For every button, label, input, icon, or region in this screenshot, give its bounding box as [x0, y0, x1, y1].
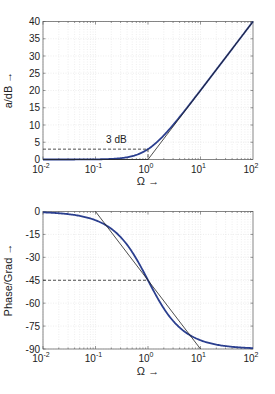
y-tick-label: 0 — [34, 206, 40, 217]
y-tick-label: 20 — [29, 85, 41, 96]
chart-magnitude: 051015202530354010-210-1100101102Ω →a/dB… — [2, 16, 259, 187]
y-tick-label: -15 — [26, 229, 41, 240]
y-tick-label: -30 — [26, 252, 41, 263]
x-tick-label: 100 — [138, 162, 153, 175]
y-axis-label: a/dB → — [2, 72, 14, 109]
x-tick-label: 101 — [191, 162, 206, 175]
y-tick-label: -45 — [26, 275, 41, 286]
y-tick-label: 5 — [34, 137, 40, 148]
x-axis-label: Ω → — [137, 175, 159, 187]
y-tick-label: 30 — [29, 51, 41, 62]
annotation-3db: 3 dB — [106, 134, 127, 145]
chart-phase: -90-75-60-45-30-15010-210-1100101102Ω →P… — [2, 206, 259, 377]
x-axis-label: Ω → — [137, 365, 159, 377]
x-tick-label: 10-1 — [85, 162, 102, 175]
y-tick-label: -75 — [26, 321, 41, 332]
y-tick-label: 10 — [29, 120, 41, 131]
x-tick-label: 10-2 — [32, 162, 49, 175]
x-tick-label: 100 — [138, 351, 153, 364]
y-axis-label: Phase/Grad → — [2, 244, 14, 317]
y-tick-label: 40 — [29, 16, 41, 27]
x-tick-label: 102 — [243, 162, 258, 175]
bode-plot: 051015202530354010-210-1100101102Ω →a/dB… — [0, 0, 275, 394]
x-tick-label: 10-2 — [32, 351, 49, 364]
y-tick-label: -60 — [26, 298, 41, 309]
x-tick-label: 102 — [243, 351, 258, 364]
x-tick-label: 101 — [191, 351, 206, 364]
y-tick-label: 35 — [29, 33, 41, 44]
y-tick-label: 15 — [29, 102, 41, 113]
x-tick-label: 10-1 — [85, 351, 102, 364]
y-tick-label: 25 — [29, 68, 41, 79]
